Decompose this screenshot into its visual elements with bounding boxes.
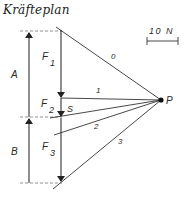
ray-1 (61, 98, 161, 100)
label-f2: F 2 (41, 98, 54, 115)
svg-text:F: F (41, 98, 48, 109)
label-ray-0: 0 (111, 52, 116, 61)
svg-text:2: 2 (48, 105, 54, 115)
label-p: P (166, 95, 173, 106)
svg-text:F: F (42, 51, 49, 62)
scale-label: 10 N (149, 26, 174, 36)
label-ray-1: 1 (96, 86, 100, 95)
label-a: A (10, 69, 18, 80)
label-ray-3: 3 (118, 137, 123, 146)
svg-text:1: 1 (50, 58, 55, 68)
label-b: B (11, 146, 18, 157)
label-s: S (67, 104, 73, 114)
label-f1: F 1 (42, 51, 55, 68)
label-f3: F 3 (42, 141, 55, 158)
svg-text:F: F (42, 141, 49, 152)
ray-0 (56, 27, 161, 100)
svg-text:3: 3 (50, 148, 55, 158)
pole-point (158, 97, 163, 102)
force-diagram: 10 N A B F 1 F 2 F 3 S P 0 1 2 3 (0, 0, 190, 198)
scale-bar (147, 37, 178, 45)
label-ray-2: 2 (93, 122, 99, 131)
